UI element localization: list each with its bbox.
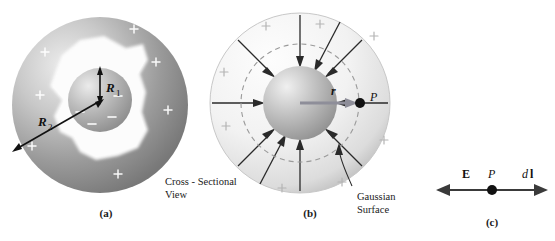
field-e-label: E: [462, 167, 470, 181]
point-p-label-c: P: [487, 167, 496, 181]
panel-b-gaussian-surface: r P Gaussian Surface (b): [200, 0, 410, 241]
vector-r-label: r: [331, 84, 336, 98]
radius-r2-label: R: [37, 114, 47, 129]
panel-c-label: (c): [472, 216, 512, 228]
path-element-dl-label: d: [522, 167, 529, 181]
radius-r1-subscript: 1: [116, 88, 121, 98]
point-p-label: P: [369, 90, 378, 104]
panel-a-drawing: R 1 R 2: [0, 0, 200, 241]
physics-figure: R 1 R 2 Cross - Sectional View (a): [0, 0, 555, 241]
gaussian-surface-caption: Gaussian Surface: [357, 191, 427, 216]
panel-b-label: (b): [290, 207, 330, 219]
panel-c-field-element: E P d l (c): [430, 150, 555, 241]
path-element-l-label: l: [530, 167, 534, 181]
panel-a-label: (a): [86, 207, 126, 219]
panel-a-cross-section: R 1 R 2 Cross - Sectional View (a): [0, 0, 200, 241]
radius-r1-label: R: [105, 80, 115, 95]
point-p-marker: [355, 98, 365, 108]
radius-r2-subscript: 2: [48, 122, 53, 132]
point-p-marker-c: [487, 185, 497, 195]
